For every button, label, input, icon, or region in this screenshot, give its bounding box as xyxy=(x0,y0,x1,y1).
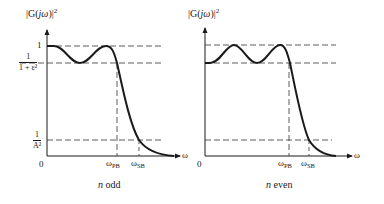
plot-n-odd xyxy=(20,30,180,156)
wpb-label: ωPB xyxy=(106,159,120,170)
wpb-label: ωPB xyxy=(278,159,292,170)
response-curve xyxy=(47,46,174,156)
tick-one-label: 1 xyxy=(37,41,42,50)
wsb-label: ωSB xyxy=(131,159,145,170)
origin-label: 0 xyxy=(197,160,202,169)
y-axis-label-left: |G(jω)|2 xyxy=(26,8,57,19)
caption-n-odd: n odd xyxy=(98,179,121,190)
x-axis-label: ω xyxy=(182,151,188,160)
tick-passband-label: 1 1 + ε² xyxy=(19,53,37,72)
figure-canvas xyxy=(0,0,384,204)
tick-stopband-label: 1 A² xyxy=(33,131,41,150)
response-curve xyxy=(205,45,336,156)
x-axis-label: ω xyxy=(354,151,360,160)
y-axis-label-right: |G(jω)|2 xyxy=(188,8,219,19)
wsb-label: ωSB xyxy=(301,159,315,170)
caption-n-even: n even xyxy=(266,179,292,190)
plot-n-even xyxy=(205,28,352,156)
origin-label: 0 xyxy=(39,160,44,169)
